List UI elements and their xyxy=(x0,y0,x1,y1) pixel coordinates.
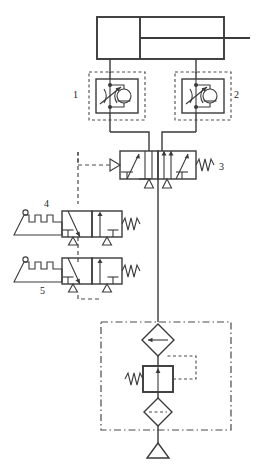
flow-control-2-label: 2 xyxy=(234,89,239,100)
flow-control-1-label: 1 xyxy=(73,89,78,100)
valve-5-label: 5 xyxy=(40,285,45,296)
valve-3-label: 3 xyxy=(219,161,224,172)
valve-4-label: 4 xyxy=(44,198,49,209)
pneumatic-circuit-diagram: .ln{stroke:#3a3a3a;stroke-width:1.4;fill… xyxy=(0,0,264,470)
